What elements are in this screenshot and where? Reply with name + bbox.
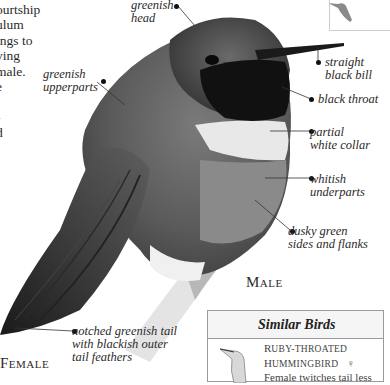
similar-bird-entry: RUBY-THROATED HUMMINGBIRD ♀ Female twitc… — [264, 342, 372, 385]
pointer-dot — [174, 4, 179, 9]
similar-birds-panel: Similar Birds RUBY-THROATED HUMMINGBIRD … — [207, 310, 384, 382]
pointer-dot — [101, 79, 106, 84]
female-symbol-icon: ♀ — [347, 357, 355, 369]
pointer-dot — [316, 60, 321, 65]
caption-female: FEMALE — [0, 355, 49, 372]
label-greenish-head: greenish head — [131, 0, 174, 25]
label-partial-white-collar: partial white collar — [310, 126, 370, 152]
label-whitish-underparts: whitish underparts — [310, 173, 365, 199]
caption-male: MALE — [246, 274, 283, 291]
label-straight-black-bill: straight black bill — [325, 56, 372, 82]
ruby-throated-hummingbird-thumbnail-icon — [220, 343, 250, 383]
label-greenish-upperparts: greenish upperparts — [43, 68, 98, 94]
similar-birds-title: Similar Birds — [208, 311, 383, 339]
label-notched-tail: notched greenish tail with blackish oute… — [72, 325, 177, 364]
pointer-dot — [309, 97, 314, 102]
label-black-throat: black throat — [318, 93, 378, 106]
label-dusky-green-sides: dusky green sides and flanks — [288, 225, 368, 251]
